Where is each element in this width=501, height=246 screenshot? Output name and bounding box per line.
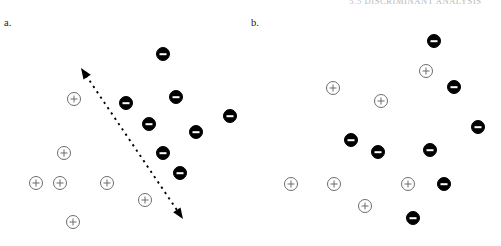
discriminant-analysis-figure: 5.5 DISCRIMINANT ANALYSIS a. b. [0,0,501,246]
plus-icon [426,68,427,75]
minus-icon [431,40,438,42]
positive-class-marker [326,81,340,95]
positive-class-marker [401,177,415,191]
negative-class-marker [344,133,358,147]
negative-class-marker [423,143,437,157]
negative-class-marker [371,145,385,159]
negative-class-marker [447,80,461,94]
plus-icon [333,85,334,92]
minus-icon [451,86,458,88]
positive-class-marker [374,94,388,108]
panel-b-scatter [0,0,501,246]
negative-class-marker [406,211,420,225]
negative-class-marker [427,34,441,48]
plus-icon [365,203,366,210]
minus-icon [475,126,482,128]
positive-class-marker [284,177,298,191]
positive-class-marker [358,199,372,213]
minus-icon [410,217,417,219]
positive-class-marker [419,64,433,78]
positive-class-marker [327,177,341,191]
plus-icon [334,181,335,188]
negative-class-marker [471,120,485,134]
plus-icon [408,181,409,188]
minus-icon [427,149,434,151]
minus-icon [375,151,382,153]
minus-icon [348,139,355,141]
minus-icon [441,183,448,185]
negative-class-marker [437,177,451,191]
plus-icon [291,181,292,188]
plus-icon [381,98,382,105]
